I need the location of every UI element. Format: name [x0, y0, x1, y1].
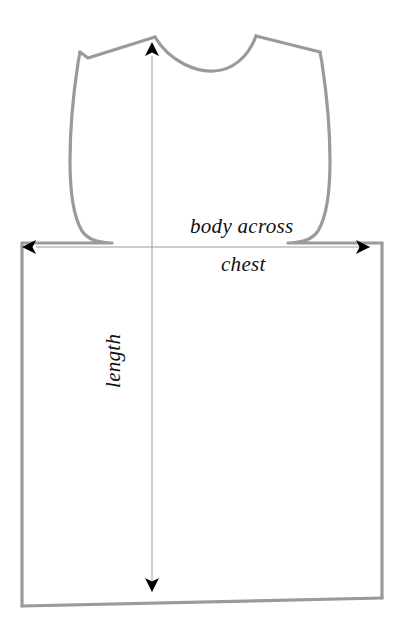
- garment-measurement-diagram: body across chest length: [0, 0, 417, 629]
- garment-outline-svg: [0, 0, 417, 629]
- label-chest: chest: [221, 254, 266, 275]
- label-length: length: [103, 334, 124, 388]
- garment-body-outline: [22, 36, 382, 606]
- label-body-across: body across: [190, 216, 293, 237]
